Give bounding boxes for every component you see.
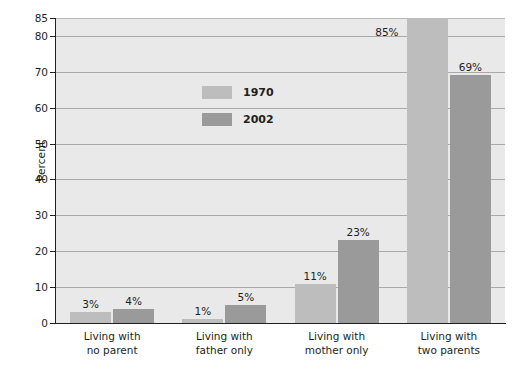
y-tick-80 xyxy=(50,36,56,37)
y-tick-40 xyxy=(50,179,56,180)
y-tick-label-50: 50 xyxy=(4,138,48,150)
y-tick-label-20: 20 xyxy=(4,245,48,257)
legend: 1970 2002 xyxy=(202,86,274,140)
bar-label-1970-cat0: 3% xyxy=(82,298,99,310)
bar-label-1970-cat3: 85% xyxy=(375,26,398,38)
legend-swatch-1970 xyxy=(202,86,232,99)
bar-2002-cat0 xyxy=(113,309,154,323)
bar-label-2002-cat3: 69% xyxy=(459,61,482,73)
y-tick-20 xyxy=(50,251,56,252)
category-label-2: Living withmother only xyxy=(305,330,369,357)
category-label-0: Living withno parent xyxy=(84,330,141,357)
bar-1970-cat3 xyxy=(407,18,448,323)
category-label-line: two parents xyxy=(418,344,480,358)
y-tick-label-0: 0 xyxy=(4,317,48,329)
y-tick-label-40: 40 xyxy=(4,173,48,185)
bar-label-2002-cat2: 23% xyxy=(346,226,369,238)
y-tick-85 xyxy=(50,18,56,19)
y-tick-0 xyxy=(50,323,56,324)
category-label-line: Living with xyxy=(305,330,369,344)
legend-item-1970: 1970 xyxy=(202,86,274,99)
y-tick-50 xyxy=(50,144,56,145)
category-label-line: Living with xyxy=(418,330,480,344)
legend-label-1970: 1970 xyxy=(243,86,274,99)
y-tick-label-30: 30 xyxy=(4,209,48,221)
bar-label-1970-cat1: 1% xyxy=(195,305,212,317)
plot-area: 1970 2002 xyxy=(56,18,505,323)
bar-2002-cat3 xyxy=(450,75,491,323)
bar-label-2002-cat0: 4% xyxy=(125,295,142,307)
bar-2002-cat2 xyxy=(338,240,379,323)
y-tick-label-10: 10 xyxy=(4,281,48,293)
legend-label-2002: 2002 xyxy=(243,113,274,126)
bar-label-2002-cat1: 5% xyxy=(238,291,255,303)
category-label-1: Living withfather only xyxy=(196,330,253,357)
bar-label-1970-cat2: 11% xyxy=(303,270,326,282)
category-label-line: Living with xyxy=(84,330,141,344)
y-axis-line xyxy=(55,18,56,324)
legend-swatch-2002 xyxy=(202,113,232,126)
y-axis-tick-labels: 0102030405060708085 xyxy=(0,0,48,371)
y-tick-label-80: 80 xyxy=(4,30,48,42)
category-label-line: no parent xyxy=(84,344,141,358)
y-tick-60 xyxy=(50,108,56,109)
category-label-line: mother only xyxy=(305,344,369,358)
x-axis-line xyxy=(55,323,506,324)
y-tick-label-70: 70 xyxy=(4,66,48,78)
bar-chart: Percent 0102030405060708085 1970 2002 3%… xyxy=(0,0,524,371)
category-label-line: Living with xyxy=(196,330,253,344)
category-label-3: Living withtwo parents xyxy=(418,330,480,357)
category-label-line: father only xyxy=(196,344,253,358)
y-tick-70 xyxy=(50,72,56,73)
bar-1970-cat0 xyxy=(70,312,111,323)
bar-2002-cat1 xyxy=(225,305,266,323)
legend-item-2002: 2002 xyxy=(202,113,274,126)
y-tick-10 xyxy=(50,287,56,288)
y-tick-label-60: 60 xyxy=(4,102,48,114)
y-tick-30 xyxy=(50,215,56,216)
y-tick-label-85: 85 xyxy=(4,12,48,24)
bar-1970-cat2 xyxy=(295,284,336,323)
